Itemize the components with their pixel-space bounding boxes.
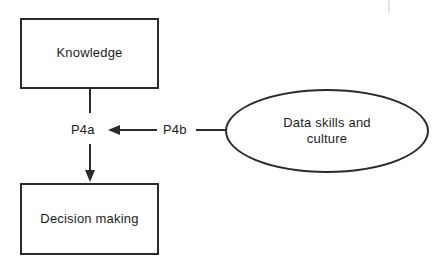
edge-label-p4a: P4a: [71, 122, 95, 137]
node-knowledge[interactable]: Knowledge: [20, 18, 159, 89]
node-data-skills-and-culture[interactable]: Data skills and culture: [225, 89, 429, 173]
node-decision-making[interactable]: Decision making: [20, 183, 159, 255]
node-decision-making-label: Decision making: [40, 211, 138, 227]
edge-p4a-to-decision-arrowhead: [85, 170, 95, 182]
edge-p4b-to-p4a-arrowhead: [108, 125, 120, 135]
edge-label-p4b: P4b: [163, 122, 187, 137]
scan-artifact-mark: [388, 0, 390, 13]
node-knowledge-label: Knowledge: [56, 45, 122, 61]
node-data-skills-and-culture-label: Data skills and culture: [283, 115, 371, 148]
diagram-canvas: Knowledge Decision making Data skills an…: [0, 0, 444, 270]
